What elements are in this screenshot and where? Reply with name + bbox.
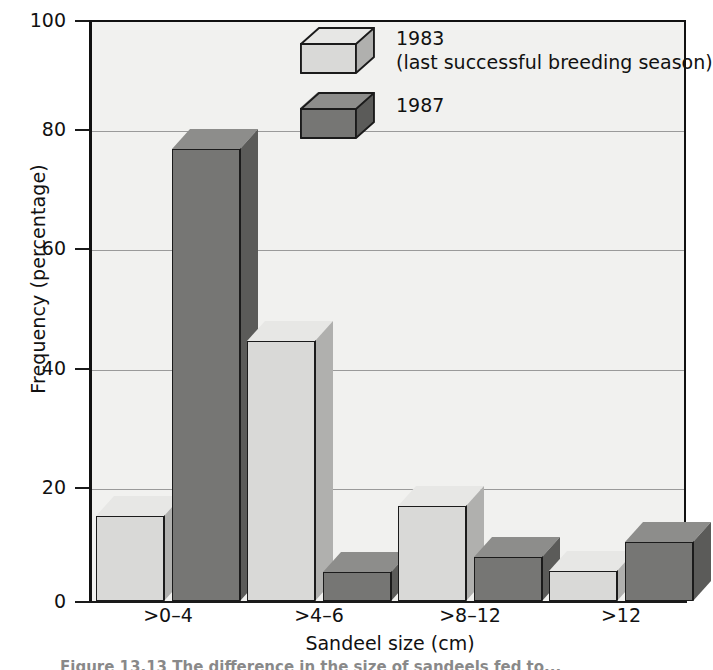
x-tick-label-1: >4–6 <box>259 604 379 626</box>
bar-front-face <box>247 341 315 601</box>
bar-1987-gt8-12 <box>474 537 542 601</box>
legend-label-1987: 1987 <box>396 94 444 116</box>
bar-front-face <box>172 149 240 601</box>
x-tick-label-0: >0–4 <box>108 604 228 626</box>
bar-1983-gt8-12 <box>398 486 466 601</box>
bar-front-face <box>398 506 466 601</box>
x-axis-line <box>89 601 687 603</box>
bar-1987-gt12 <box>625 522 693 601</box>
x-axis-title: Sandeel size (cm) <box>100 632 680 654</box>
y-tickmark-40 <box>75 368 89 370</box>
bar-1983-gt4-6 <box>247 321 315 601</box>
bar-1983-gt0-4 <box>96 496 164 601</box>
legend-label-1983: 1983 <box>396 27 444 49</box>
legend-swatch-outline <box>300 92 378 142</box>
y-tickmark-0 <box>75 601 89 603</box>
y-tickmark-80 <box>75 129 89 131</box>
y-tickmark-100 <box>75 20 89 22</box>
y-tickmark-20 <box>75 487 89 489</box>
bar-front-face <box>323 572 391 601</box>
legend-swatch-1987-icon <box>300 92 376 140</box>
x-tick-label-2: >8–12 <box>410 604 530 626</box>
bar-1987-gt0-4 <box>172 129 240 601</box>
y-tick-label-0: 0 <box>14 592 66 611</box>
y-tick-label-100: 100 <box>14 11 66 30</box>
y-tick-label-80: 80 <box>14 120 66 139</box>
bar-front-face <box>625 542 693 601</box>
bar-front-face <box>474 557 542 601</box>
legend-sublabel-1983: (last successful breeding season) <box>396 51 713 73</box>
x-tick-label-3: >12 <box>561 604 681 626</box>
y-tickmark-60 <box>75 248 89 250</box>
bar-1983-gt12 <box>549 551 617 601</box>
y-tick-label-20: 20 <box>14 478 66 497</box>
bar-front-face <box>96 516 164 601</box>
legend-swatch-1983-icon <box>300 27 376 75</box>
bar-1987-gt4-6 <box>323 552 391 601</box>
bar-front-face <box>549 571 617 601</box>
legend-swatch-outline <box>300 27 378 77</box>
y-axis-title: Frequency (percentage) <box>27 149 49 409</box>
figure-caption: Figure 13.13 The difference in the size … <box>60 658 680 670</box>
